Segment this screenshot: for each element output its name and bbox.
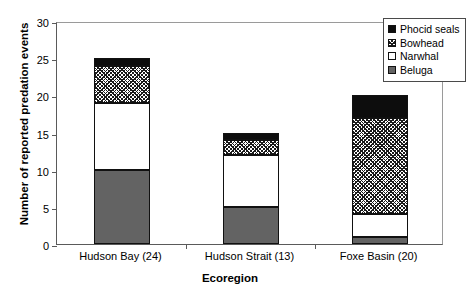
solid-gray-swatch <box>388 66 396 74</box>
y-tick-label: 5 <box>43 203 49 215</box>
bar-segment-phocid-seals[interactable] <box>94 58 150 65</box>
y-tick <box>52 23 57 24</box>
x-tick <box>315 244 316 249</box>
y-tick-label: 30 <box>37 17 49 29</box>
y-tick-label: 25 <box>37 54 49 66</box>
bar-segment-beluga[interactable] <box>94 170 150 244</box>
x-category-label: Foxe Basin (20) <box>340 250 418 262</box>
bar-segment-narwhal[interactable] <box>94 103 150 170</box>
stacked-bar[interactable] <box>94 58 150 244</box>
y-tick <box>52 172 57 173</box>
x-tick <box>186 244 187 249</box>
bar-segment-narwhal[interactable] <box>223 155 279 207</box>
y-axis-title: Number of reported predation events <box>18 4 30 244</box>
bar-segment-bowhead[interactable] <box>223 140 279 155</box>
legend-item-label: Phocid seals <box>400 23 460 35</box>
bar-segment-beluga[interactable] <box>223 207 279 244</box>
x-category-label: Hudson Bay (24) <box>79 250 162 262</box>
white-swatch <box>388 52 396 60</box>
solid-black-swatch <box>388 25 396 33</box>
y-tick-label: 15 <box>37 129 49 141</box>
legend-item[interactable]: Phocid seals <box>388 23 460 36</box>
y-tick-label: 20 <box>37 91 49 103</box>
bar-segment-narwhal[interactable] <box>352 214 408 236</box>
x-axis-title: Ecoregion <box>0 272 460 284</box>
stacked-bar[interactable] <box>352 95 408 244</box>
y-tick <box>52 246 57 247</box>
legend-item[interactable]: Narwhal <box>388 50 460 63</box>
y-tick <box>52 60 57 61</box>
legend-item-label: Beluga <box>400 64 433 76</box>
bar-segment-bowhead[interactable] <box>352 118 408 215</box>
y-tick-label: 0 <box>43 240 49 252</box>
bar-segment-bowhead[interactable] <box>94 66 150 103</box>
legend-item[interactable]: Bowhead <box>388 37 460 50</box>
legend-item[interactable]: Beluga <box>388 64 460 77</box>
stacked-bar[interactable] <box>223 133 279 245</box>
legend-item-label: Narwhal <box>400 50 439 62</box>
crosshatch-swatch <box>388 39 396 47</box>
y-tick <box>52 97 57 98</box>
bar-segment-phocid-seals[interactable] <box>223 133 279 140</box>
bar-segment-beluga[interactable] <box>352 237 408 244</box>
x-category-label: Hudson Strait (13) <box>205 250 294 262</box>
chart-legend: Phocid sealsBowheadNarwhalBeluga <box>383 18 466 82</box>
legend-item-label: Bowhead <box>400 37 444 49</box>
bar-segment-phocid-seals[interactable] <box>352 95 408 117</box>
y-tick <box>52 135 57 136</box>
y-tick <box>52 209 57 210</box>
y-tick-label: 10 <box>37 166 49 178</box>
